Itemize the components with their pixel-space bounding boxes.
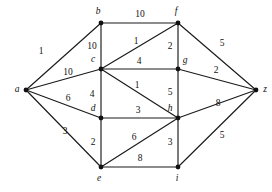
graph-node-h (176, 116, 181, 121)
graph-node-label-i: i (176, 173, 179, 183)
graph-node-e (99, 165, 104, 170)
edge-weight-a-d: 6 (66, 93, 71, 103)
edge-weight-h-i: 3 (168, 137, 173, 147)
edge-weight-i-z: 5 (220, 130, 225, 140)
graph-node-label-d: d (91, 103, 96, 113)
graph-node-b (99, 21, 104, 26)
edge-weight-c-g: 4 (137, 56, 142, 66)
edge-weight-c-h: 1 (135, 80, 140, 90)
edge-weight-f-z: 5 (220, 38, 225, 48)
graph-node-label-a: a (15, 84, 20, 94)
edge-weight-g-z: 2 (214, 65, 219, 75)
edge-weight-d-e: 2 (91, 137, 96, 147)
edge-weight-a-e: 3 (63, 126, 68, 136)
graph-node-a (24, 88, 29, 93)
edge-weight-e-i: 8 (138, 153, 143, 163)
graph-node-c (99, 67, 104, 72)
edge-weight-h-z: 8 (216, 98, 221, 108)
edge-weight-d-h: 3 (136, 105, 141, 115)
edge-weight-a-c: 10 (63, 67, 73, 77)
edge-weight-g-h: 5 (168, 87, 173, 97)
edge-weight-b-f: 10 (135, 9, 145, 19)
graph-node-i (176, 165, 181, 170)
graph-node-label-c: c (91, 54, 96, 64)
edge-weight-a-b: 1 (39, 46, 44, 56)
edge-weights-layer: 110631010144132682552385 (39, 9, 225, 163)
graph-canvas: 110631010144132682552385 abcdefghiz (0, 0, 272, 192)
graph-node-label-g: g (183, 55, 188, 65)
graph-node-label-f: f (175, 6, 179, 16)
graph-node-z (254, 88, 259, 93)
edge-weight-e-h: 6 (132, 132, 137, 142)
graph-figure: 110631010144132682552385 abcdefghiz (0, 0, 272, 192)
graph-node-label-z: z (262, 84, 267, 94)
graph-node-g (176, 67, 181, 72)
graph-node-d (99, 116, 104, 121)
graph-node-label-b: b (96, 6, 101, 16)
graph-node-f (176, 21, 181, 26)
graph-node-label-h: h (168, 103, 173, 113)
edge-weight-c-f: 1 (134, 36, 139, 46)
edge-weight-b-c: 10 (87, 41, 97, 51)
edge-weight-c-d: 4 (90, 89, 95, 99)
edge-weight-f-g: 2 (168, 41, 173, 51)
graph-node-label-e: e (97, 173, 101, 183)
